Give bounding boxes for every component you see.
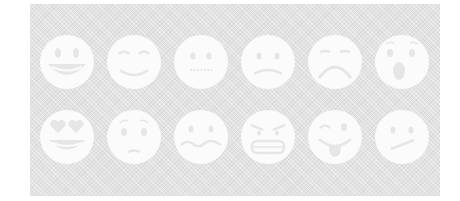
worried-face-icon (106, 109, 162, 165)
winking-tongue-face-icon (307, 109, 363, 165)
sad-closed-eyes-face-icon (307, 34, 363, 90)
neutral-zipped-face-icon (173, 34, 229, 90)
frowning-face-icon (240, 34, 296, 90)
smiling-face-icon (106, 34, 162, 90)
grinning-face-icon (39, 34, 95, 90)
surprised-face-icon (374, 34, 430, 90)
confused-face-icon (374, 109, 430, 165)
angry-grimacing-face-icon (240, 109, 296, 165)
confounded-face-icon (173, 109, 229, 165)
heart-eyes-face-icon (39, 109, 95, 165)
emoji-grid-panel (30, 4, 440, 196)
